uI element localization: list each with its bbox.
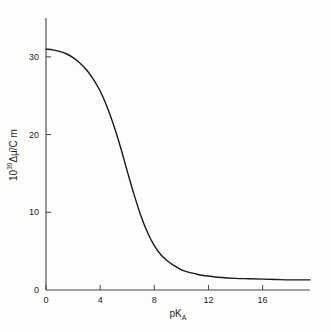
chart-figure: 0481216 0102030 pKA 1030Δμ̄/C m xyxy=(0,0,331,332)
x-axis-title: pKA xyxy=(170,309,187,321)
y-axis-title: 1030Δμ̄/C m xyxy=(7,129,18,181)
y-tick-label: 20 xyxy=(29,130,39,139)
y-tick-label: 10 xyxy=(29,208,39,217)
y-axis-title-exponent: 30 xyxy=(6,163,13,170)
y-tick-label: 0 xyxy=(34,286,39,295)
x-axis-title-subscript: A xyxy=(182,314,187,321)
y-axis-tick-labels: 0102030 xyxy=(0,0,331,332)
y-tick-label: 30 xyxy=(29,52,39,61)
